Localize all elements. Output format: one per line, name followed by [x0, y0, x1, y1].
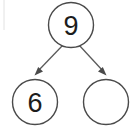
arrow-whole-to-right-part	[79, 45, 107, 76]
arrow-left-shaft	[38, 45, 63, 71]
arrow-right-head-icon	[98, 67, 107, 76]
node-part-right-circle[interactable]	[84, 80, 129, 125]
node-part-left[interactable]: 6	[13, 80, 58, 125]
arrow-right-shaft	[79, 45, 103, 71]
arrow-left-head-icon	[35, 67, 44, 76]
node-whole[interactable]: 9	[49, 3, 94, 48]
arrow-whole-to-left-part	[35, 45, 64, 76]
node-part-left-label: 6	[27, 88, 42, 118]
number-bond-diagram: 9 6	[0, 0, 130, 129]
node-part-right[interactable]	[84, 80, 129, 125]
node-whole-label: 9	[63, 11, 78, 41]
number-bond-canvas: 9 6	[0, 0, 130, 129]
